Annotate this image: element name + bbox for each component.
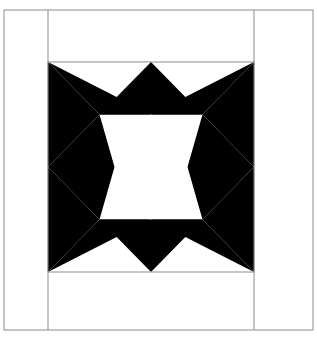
diagram-canvas <box>0 0 317 339</box>
quilt-block-figure <box>0 0 317 339</box>
